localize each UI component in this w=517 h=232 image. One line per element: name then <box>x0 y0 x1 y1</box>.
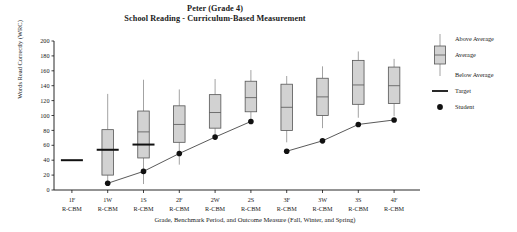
x-tick-label-measure: R-CBM <box>98 205 118 212</box>
x-tick-label-measure: R-CBM <box>313 205 333 212</box>
legend-label-above-average: Above Average <box>455 35 494 42</box>
x-tick-label-measure: R-CBM <box>384 205 404 212</box>
x-tick-label-period: 3S <box>355 196 362 203</box>
boxplot-3W <box>317 66 329 128</box>
y-tick-label: 180 <box>40 52 49 59</box>
boxplot-canvas: 0204060801001201401601802001FR-CBM1WR-CB… <box>0 0 517 232</box>
x-tick-label-measure: R-CBM <box>205 205 225 212</box>
x-tick-label-measure: R-CBM <box>348 205 368 212</box>
student-point-3F <box>284 148 290 154</box>
boxplot-2S <box>245 70 257 123</box>
y-tick-label: 200 <box>40 37 49 44</box>
x-tick-label-measure: R-CBM <box>241 205 261 212</box>
chart-root: Peter (Grade 4) School Reading - Curricu… <box>0 0 517 232</box>
x-tick-label-measure: R-CBM <box>62 205 82 212</box>
y-tick-label: 60 <box>43 141 49 148</box>
student-point-3S <box>356 122 362 128</box>
x-tick-label-measure: R-CBM <box>169 205 189 212</box>
student-point-2S <box>248 119 254 125</box>
y-tick-label: 160 <box>40 67 49 74</box>
x-tick-label-period: 1F <box>69 196 76 203</box>
boxplot-3F <box>281 76 293 142</box>
legend-label-target: Target <box>455 87 471 94</box>
student-connector <box>323 124 359 140</box>
y-tick-label: 100 <box>40 112 49 119</box>
student-point-2W <box>212 134 218 140</box>
x-tick-label-period: 1S <box>140 196 147 203</box>
y-tick-label: 80 <box>43 127 49 134</box>
y-tick-label: 0 <box>46 186 49 193</box>
box-iqr <box>353 60 365 104</box>
x-tick-label-measure: R-CBM <box>134 205 154 212</box>
legend-student-dot <box>437 104 443 110</box>
boxplot-4F <box>388 59 400 116</box>
y-tick-label: 40 <box>43 156 49 163</box>
x-tick-label-period: 4F <box>391 196 398 203</box>
box-iqr <box>138 111 150 158</box>
legend-label-average: Average <box>455 51 476 58</box>
chart-legend: Above AverageAverageBelow AverageTargetS… <box>432 34 494 110</box>
student-point-3W <box>320 138 326 144</box>
boxplot-3S <box>353 51 365 117</box>
x-tick-label-measure: R-CBM <box>277 205 297 212</box>
box-iqr <box>245 81 257 112</box>
student-point-1S <box>141 169 147 175</box>
x-tick-label-period: 2W <box>211 196 220 203</box>
boxplot-1W <box>102 94 114 184</box>
x-tick-label-period: 1W <box>103 196 112 203</box>
y-tick-label: 140 <box>40 82 49 89</box>
legend-label-below-average: Below Average <box>455 71 494 78</box>
x-tick-label-period: 2F <box>176 196 183 203</box>
legend-label-student: Student <box>455 103 474 110</box>
y-tick-label: 120 <box>40 97 49 104</box>
box-iqr <box>102 130 114 175</box>
x-axis-caption: Grade, Benchmark Period, and Outcome Mea… <box>0 216 510 223</box>
boxplot-1S <box>138 80 150 184</box>
student-connector <box>287 141 323 151</box>
box-iqr <box>209 95 221 129</box>
boxplot-2W <box>209 79 221 139</box>
x-tick-label-period: 3W <box>318 196 327 203</box>
student-point-1W <box>105 180 111 186</box>
x-tick-label-period: 3F <box>283 196 290 203</box>
x-tick-label-period: 2S <box>248 196 255 203</box>
y-tick-label: 20 <box>43 171 49 178</box>
student-connector <box>358 120 394 124</box>
student-point-4F <box>391 117 397 123</box>
student-point-2F <box>177 151 183 157</box>
